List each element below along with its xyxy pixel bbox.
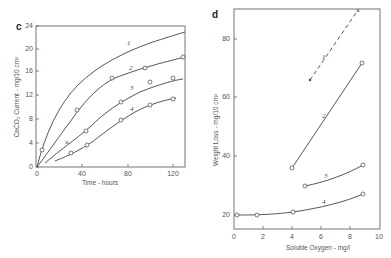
y-tick: 20	[222, 211, 230, 218]
chart-d: d 20 40 60 80 Weight Loss - mg/10 cm² 0 …	[212, 7, 383, 252]
y-tick: 60	[222, 93, 230, 100]
x-tick: 0	[232, 233, 236, 240]
x-tick: 2	[261, 233, 265, 240]
curve-2	[292, 63, 362, 168]
chart-c-y-axis: 0 4 8 12 16 20 24 CaCO₃ Current - mg/10 …	[13, 22, 39, 170]
chart-d-x-axis: 0 2 4 6 8 10 Soluble Oxygen - mg/l	[232, 226, 383, 252]
y-axis-label: Weight Loss - mg/10 cm²	[212, 93, 220, 166]
curve-4	[55, 98, 176, 161]
x-axis-label: Soluble Oxygen - mg/l	[286, 244, 351, 252]
curve-label-1: 1	[322, 53, 326, 61]
x-tick: 8	[348, 233, 352, 240]
curve-4	[237, 194, 363, 215]
x-tick: 4	[290, 233, 294, 240]
chart-c: c 0 4 8 12 16 20 24 CaCO₃ Current - mg/1…	[13, 21, 185, 186]
curve-label-4: 4	[130, 105, 134, 113]
curve-label-3: 3	[129, 84, 134, 92]
data-marker: ×	[356, 7, 360, 14]
y-tick: 12	[25, 91, 33, 98]
curve-label-1: 1	[127, 39, 131, 47]
y-tick: 24	[25, 22, 33, 29]
chart-c-frame	[36, 26, 185, 167]
y-axis-label: CaCO₃ Current - mg/10 cm²	[13, 56, 21, 137]
figure: c 0 4 8 12 16 20 24 CaCO₃ Current - mg/1…	[0, 0, 391, 258]
y-tick: 20	[25, 45, 33, 52]
y-tick: 0	[29, 163, 33, 170]
curve-label-3: 3	[323, 172, 328, 180]
y-tick: 80	[222, 35, 230, 42]
chart-d-y-axis: 20 40 60 80 Weight Loss - mg/10 cm²	[212, 35, 237, 218]
y-tick: 4	[29, 139, 33, 146]
curve-2	[37, 57, 185, 167]
curve-label-2: 2	[322, 112, 326, 120]
data-marker	[309, 79, 311, 81]
x-tick: 40	[78, 170, 86, 177]
panel-label-d: d	[212, 9, 218, 20]
panel-label-c: c	[16, 21, 22, 32]
curve-label-4: 4	[322, 198, 326, 206]
y-tick: 16	[25, 67, 33, 74]
x-axis-label: Time - hours	[82, 179, 119, 186]
curve-1	[310, 10, 358, 80]
svg-text:×: ×	[65, 139, 69, 146]
x-tick: 120	[167, 170, 179, 177]
curve-1	[37, 32, 185, 167]
curve-label-2: 2	[129, 64, 133, 72]
curve-3	[45, 79, 183, 163]
y-tick: 8	[29, 115, 33, 122]
x-tick: 0	[35, 170, 39, 177]
x-tick: 80	[124, 170, 132, 177]
x-tick: 10	[375, 233, 383, 240]
x-tick: 6	[319, 233, 323, 240]
curve-3	[305, 165, 363, 186]
y-tick: 40	[222, 152, 230, 159]
